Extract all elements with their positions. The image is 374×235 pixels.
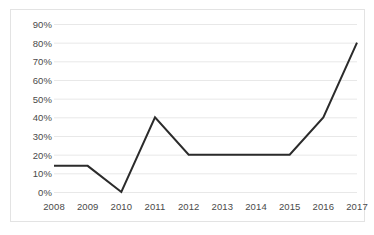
y-axis-tick-label: 50%	[8, 93, 52, 104]
y-axis-tick-label: 40%	[8, 112, 52, 123]
y-axis-tick-label: 90%	[8, 19, 52, 30]
x-axis-tick-label: 2017	[346, 201, 368, 212]
y-axis-tick-label: 70%	[8, 56, 52, 67]
x-axis-tick-label: 2010	[111, 201, 133, 212]
y-axis-tick-label: 10%	[8, 168, 52, 179]
x-axis-tick-label: 2011	[145, 201, 166, 212]
x-axis-tick-label: 2012	[178, 201, 200, 212]
y-axis: 0%10%20%30%40%50%60%70%80%90%	[0, 0, 52, 235]
x-axis-tick-label: 2009	[77, 201, 99, 212]
x-axis-tick-label: 2008	[43, 201, 65, 212]
y-axis-tick-label: 0%	[8, 187, 52, 198]
x-axis-tick-label: 2016	[313, 201, 335, 212]
y-axis-tick-label: 80%	[8, 37, 52, 48]
y-axis-tick-label: 60%	[8, 75, 52, 86]
chart-container: 0%10%20%30%40%50%60%70%80%90% 2008200920…	[0, 0, 374, 235]
y-axis-tick-label: 20%	[8, 149, 52, 160]
x-axis-tick-label: 2015	[279, 201, 301, 212]
y-axis-tick-label: 30%	[8, 131, 52, 142]
chart-gridlines	[0, 0, 374, 235]
x-axis-tick-label: 2013	[212, 201, 234, 212]
x-axis-tick-label: 2014	[245, 201, 267, 212]
